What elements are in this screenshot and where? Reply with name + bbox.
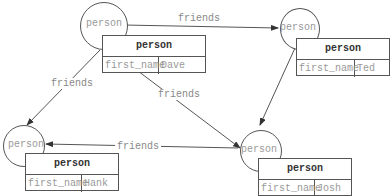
node-type-label-dave: person [86, 18, 122, 29]
property-value: Josh [315, 180, 341, 196]
node-card-dave[interactable]: person first_name Dave [102, 35, 206, 73]
edge-label-dave-ted: friends [176, 13, 222, 24]
card-title: person [259, 159, 351, 180]
property-value: Hank [82, 175, 108, 192]
property-key: first_name [26, 175, 82, 192]
edge-label-dave-hank: friends [49, 78, 95, 89]
node-card-ted[interactable]: person first_name Ted [296, 38, 390, 76]
card-title: person [103, 36, 205, 57]
edge-label-josh-hank: friends [115, 141, 161, 152]
property-key: first_name [103, 57, 159, 74]
node-card-hank[interactable]: person first_name Hank [25, 153, 119, 191]
edge-dave-josh [134, 68, 240, 148]
node-type-label-hank: person [8, 139, 44, 150]
property-key: first_name [297, 60, 355, 77]
node-card-josh[interactable]: person first_name Josh [258, 158, 352, 196]
property-value: Ted [355, 60, 375, 77]
edge-dave-ted [124, 25, 278, 28]
property-key: first_name [259, 180, 315, 196]
card-title: person [297, 39, 389, 60]
edge-label-dave-josh: friends [156, 89, 202, 100]
edge-ted-josh [260, 48, 295, 125]
card-title: person [26, 154, 118, 175]
property-value: Dave [159, 57, 185, 74]
node-type-label-ted: person [280, 22, 316, 33]
node-type-label-josh: person [241, 144, 277, 155]
